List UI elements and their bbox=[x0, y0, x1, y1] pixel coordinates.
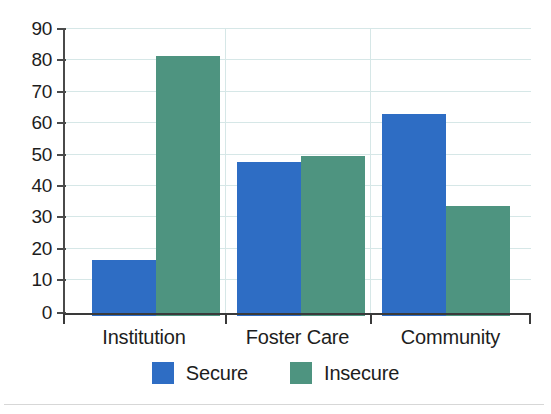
y-tick-60 bbox=[57, 122, 66, 124]
x-category-label-foster-care: Foster Care bbox=[225, 326, 370, 348]
bar-institution-insecure bbox=[156, 56, 220, 316]
bar-foster-care-secure bbox=[237, 162, 301, 316]
y-tick-label-30: 30 bbox=[6, 207, 52, 226]
x-axis-right-cap bbox=[529, 313, 531, 324]
y-tick-label-80: 80 bbox=[6, 50, 52, 69]
legend-label-secure: Secure bbox=[186, 362, 248, 384]
y-tick-20 bbox=[57, 248, 66, 250]
gridline-70 bbox=[63, 91, 531, 92]
bar-community-secure bbox=[382, 114, 446, 316]
y-tick-label-60: 60 bbox=[6, 113, 52, 132]
x-axis-line bbox=[63, 313, 531, 315]
bar-community-insecure bbox=[446, 206, 510, 316]
category-divider-2 bbox=[370, 28, 371, 313]
category-divider-1 bbox=[225, 28, 226, 313]
legend-swatch-insecure-icon bbox=[290, 362, 312, 384]
y-axis-line bbox=[63, 28, 65, 316]
gridline-50 bbox=[63, 154, 531, 155]
bar-institution-secure bbox=[92, 260, 156, 316]
x-category-label-community: Community bbox=[370, 326, 531, 348]
y-tick-70 bbox=[57, 91, 66, 93]
y-tick-label-50: 50 bbox=[6, 145, 52, 164]
y-tick-10 bbox=[57, 279, 66, 281]
y-tick-label-40: 40 bbox=[6, 176, 52, 195]
gridline-80 bbox=[63, 59, 531, 60]
y-tick-90 bbox=[57, 28, 66, 30]
scan-artifact-line bbox=[4, 404, 544, 405]
y-tick-label-20: 20 bbox=[6, 239, 52, 258]
y-tick-40 bbox=[57, 185, 66, 187]
plot-area bbox=[63, 28, 531, 316]
y-tick-80 bbox=[57, 59, 66, 61]
legend-item-secure: Secure bbox=[152, 362, 248, 384]
y-tick-label-90: 90 bbox=[6, 19, 52, 38]
gridline-60 bbox=[63, 122, 531, 123]
x-tick-divider-2 bbox=[370, 313, 372, 324]
legend-label-insecure: Insecure bbox=[324, 362, 399, 384]
gridline-90 bbox=[63, 28, 531, 29]
x-tick-left bbox=[63, 313, 65, 324]
y-tick-50 bbox=[57, 154, 66, 156]
y-tick-label-70: 70 bbox=[6, 82, 52, 101]
y-tick-label-10: 10 bbox=[6, 270, 52, 289]
legend-swatch-secure-icon bbox=[152, 362, 174, 384]
chart-legend: Secure Insecure bbox=[0, 362, 551, 384]
x-tick-divider-1 bbox=[225, 313, 227, 324]
y-tick-30 bbox=[57, 216, 66, 218]
bar-foster-care-insecure bbox=[301, 156, 365, 316]
y-axis-tick-labels: 90 80 70 60 50 40 30 20 10 0 bbox=[0, 0, 52, 340]
x-category-label-institution: Institution bbox=[63, 326, 225, 348]
bar-chart-figure: 90 80 70 60 50 40 30 20 10 0 Institution… bbox=[0, 0, 551, 414]
legend-item-insecure: Insecure bbox=[290, 362, 399, 384]
y-tick-label-0: 0 bbox=[6, 303, 52, 322]
